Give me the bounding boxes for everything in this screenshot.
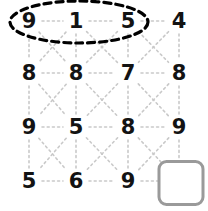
grid-cell-r1-c2: 7 xyxy=(121,63,136,84)
grid-cell-r0-c3: 4 xyxy=(172,11,187,32)
grid-cell-r0-c0: 9 xyxy=(22,11,37,32)
grid-cell-r3-c0: 5 xyxy=(22,171,37,192)
grid-cell-r1-c1: 8 xyxy=(69,63,84,84)
grid-cell-r2-c1: 5 xyxy=(69,117,84,138)
grid-cell-r2-c0: 9 xyxy=(22,117,37,138)
grid-cells-layer: 915488789589569 xyxy=(0,0,208,211)
grid-cell-r3-c2: 9 xyxy=(121,171,136,192)
answer-box[interactable] xyxy=(158,160,205,206)
grid-cell-r1-c3: 8 xyxy=(172,63,187,84)
grid-cell-r3-c1: 6 xyxy=(69,171,84,192)
grid-cell-r0-c2: 5 xyxy=(121,11,136,32)
grid-cell-r2-c3: 9 xyxy=(172,117,187,138)
grid-cell-r0-c1: 1 xyxy=(69,11,84,32)
number-grid-puzzle: 915488789589569 xyxy=(0,0,208,211)
grid-cell-r2-c2: 8 xyxy=(121,117,136,138)
grid-cell-r1-c0: 8 xyxy=(22,63,37,84)
